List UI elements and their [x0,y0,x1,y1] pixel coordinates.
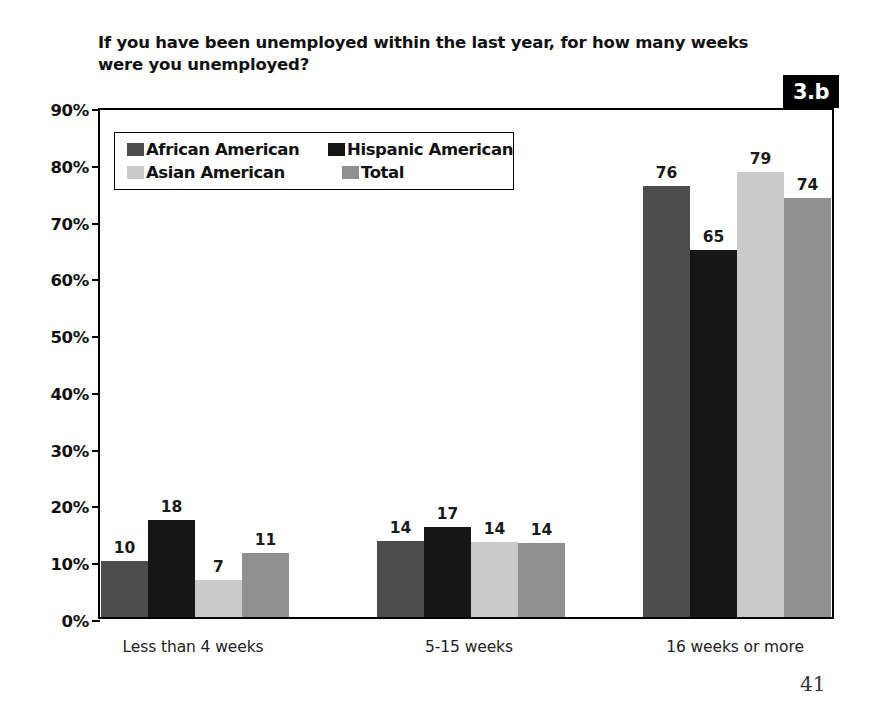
bar-hispanic-american-group-2: 17 [424,527,471,617]
legend-label-african-american: African American [146,140,299,159]
bar-asian-american-group-2: 14 [471,542,518,618]
bar-total-group-2: 14 [518,543,565,617]
legend-row: African American Hispanic American [127,138,513,161]
bar-total-group-1: 11 [242,553,289,617]
legend-row: Asian American Total [127,161,513,184]
y-axis-tick-label: 90% [50,101,89,120]
y-axis-tick-mark [92,223,100,225]
page-number: 41 [800,672,825,696]
y-axis-tick-mark [92,506,100,508]
y-axis-tick-mark [92,279,100,281]
y-axis-tick-mark [92,336,100,338]
y-axis-tick-mark [92,563,100,565]
y-axis-tick-label: 10% [50,555,89,574]
bar-asian-american-group-1: 7 [195,580,242,617]
bar-value-label: 14 [484,520,506,538]
x-axis-category-label: 5-15 weeks [425,638,513,656]
bar-value-label: 79 [750,150,772,168]
bar-african-american-group-2: 14 [377,541,424,617]
bar-african-american-group-1: 10 [101,561,148,617]
y-axis-tick-label: 40% [50,384,89,403]
bar-value-label: 18 [161,498,183,516]
bar-value-label: 10 [114,539,136,557]
legend-label-hispanic-american: Hispanic American [347,140,513,159]
y-axis-tick-mark [92,393,100,395]
bar-value-label: 17 [437,505,459,523]
y-axis-tick-label: 70% [50,214,89,233]
bar-value-label: 65 [703,228,725,246]
bar-total-group-3: 74 [784,198,831,617]
bar-value-label: 14 [390,519,412,537]
y-axis-tick-mark [92,450,100,452]
legend-swatch-total [342,166,359,179]
y-axis-tick-mark [92,109,100,111]
y-axis-tick-mark [92,166,100,168]
legend-label-total: Total [361,163,404,182]
bar-value-label: 76 [656,164,678,182]
legend-item-asian-american: Asian American [127,163,342,182]
legend-item-hispanic-american: Hispanic American [328,140,513,159]
bar-value-label: 14 [531,521,553,539]
y-axis-tick-label: 80% [50,157,89,176]
y-axis-tick-label: 20% [50,498,89,517]
bar-value-label: 74 [797,176,819,194]
legend-item-total: Total [342,163,404,182]
bar-african-american-group-3: 76 [643,186,690,618]
bar-asian-american-group-3: 79 [737,172,784,617]
bar-hispanic-american-group-3: 65 [690,250,737,617]
y-axis-tick-mark [92,620,100,622]
chart-legend: African American Hispanic American Asian… [114,132,514,190]
bar-value-label: 7 [213,558,224,576]
legend-item-african-american: African American [127,140,328,159]
legend-swatch-african-american [127,143,144,156]
legend-swatch-asian-american [127,166,144,179]
figure-badge: 3.b [783,75,839,108]
bar-hispanic-american-group-1: 18 [148,520,195,617]
y-axis-tick-label: 60% [50,271,89,290]
y-axis-tick-label: 30% [50,441,89,460]
legend-swatch-hispanic-american [328,143,345,156]
y-axis-tick-label: 0% [62,612,89,631]
chart-title: If you have been unemployed within the l… [98,32,788,77]
x-axis-category-label: 16 weeks or more [666,638,804,656]
legend-label-asian-american: Asian American [146,163,285,182]
x-axis-labels: Less than 4 weeks5-15 weeks16 weeks or m… [98,624,834,658]
plot-area: 0%10%20%30%40%50%60%70%80%90% 1018711141… [98,108,834,619]
x-axis-category-label: Less than 4 weeks [122,638,263,656]
bar-value-label: 11 [255,531,277,549]
y-axis-tick-label: 50% [50,328,89,347]
